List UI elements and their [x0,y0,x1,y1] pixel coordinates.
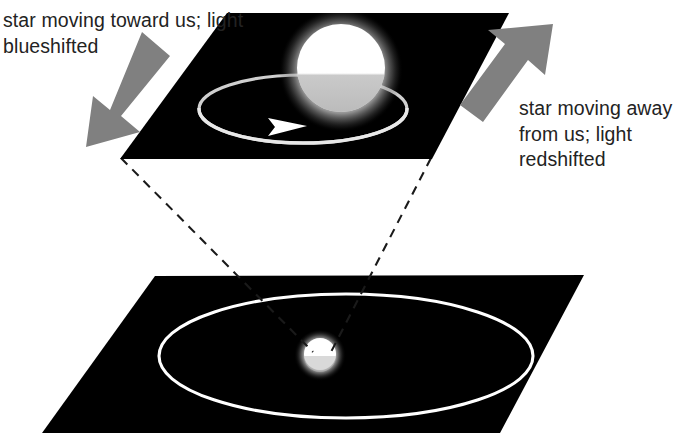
upper-panel-star [279,8,403,132]
lower-panel [42,275,584,433]
astronomy-diagram [0,0,687,433]
lower-panel-star [294,330,346,382]
caption-blueshift: star moving toward us; light blueshifted [3,8,248,59]
caption-redshift: star moving away from us; light redshift… [519,96,687,173]
figure-root: star moving toward us; light blueshifted… [0,0,687,433]
